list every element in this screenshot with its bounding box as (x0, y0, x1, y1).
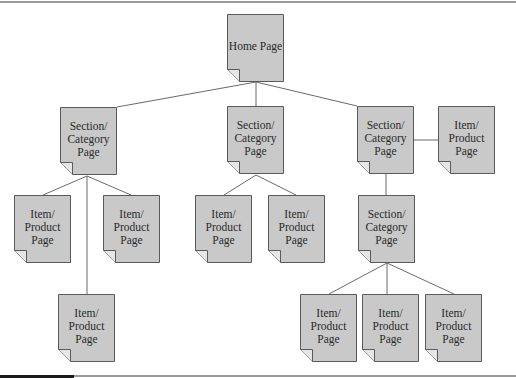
node-item-middle-1: Item/ Product Page (195, 195, 252, 263)
node-label: Item/ Product Page (425, 294, 482, 362)
node-item-sub-1: Item/ Product Page (300, 294, 357, 362)
node-label: Home Page (227, 14, 284, 82)
node-item-right-top: Item/ Product Page (438, 106, 495, 174)
node-label: Section/ Category Page (60, 107, 117, 175)
node-label: Item/ Product Page (438, 106, 495, 174)
node-item-left-1: Item/ Product Page (14, 195, 71, 263)
node-label: Section/ Category Page (358, 195, 415, 263)
node-label: Item/ Product Page (14, 195, 71, 263)
node-item-middle-2: Item/ Product Page (268, 195, 325, 263)
bottom-rule (0, 375, 516, 377)
node-label: Item/ Product Page (58, 294, 115, 362)
node-label: Section/ Category Page (227, 106, 284, 174)
node-label: Item/ Product Page (268, 195, 325, 263)
node-label: Section/ Category Page (357, 106, 414, 174)
node-label: Item/ Product Page (362, 294, 419, 362)
node-item-sub-2: Item/ Product Page (362, 294, 419, 362)
node-home-page: Home Page (227, 14, 284, 82)
node-section-left: Section/ Category Page (60, 107, 117, 175)
node-label: Item/ Product Page (103, 195, 160, 263)
node-label: Item/ Product Page (300, 294, 357, 362)
node-section-right: Section/ Category Page (357, 106, 414, 174)
node-item-left-3: Item/ Product Page (58, 294, 115, 362)
node-section-sub: Section/ Category Page (358, 195, 415, 263)
node-item-sub-3: Item/ Product Page (425, 294, 482, 362)
node-label: Item/ Product Page (195, 195, 252, 263)
node-section-middle: Section/ Category Page (227, 106, 284, 174)
node-item-left-2: Item/ Product Page (103, 195, 160, 263)
